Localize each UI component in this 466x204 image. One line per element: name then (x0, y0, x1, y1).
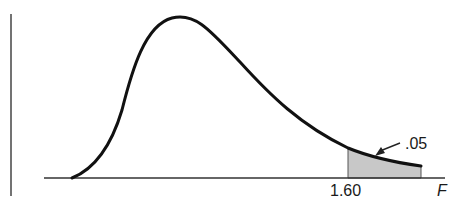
f-distribution-chart (0, 0, 466, 204)
alpha-arrow-line (380, 143, 400, 151)
critical-value-label: 1.60 (330, 183, 361, 199)
x-axis-label: F (437, 183, 447, 199)
arrow-head-icon (375, 147, 385, 156)
density-curve (72, 17, 421, 178)
tail-area-label: .05 (405, 136, 427, 152)
